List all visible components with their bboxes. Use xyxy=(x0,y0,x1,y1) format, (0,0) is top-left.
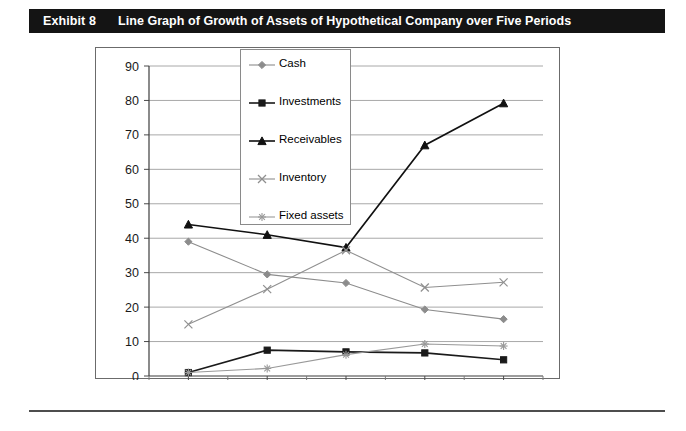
y-axis-tick-label: 30 xyxy=(125,266,139,280)
data-point-marker xyxy=(500,342,508,350)
y-axis-tick-label: 40 xyxy=(125,232,139,246)
footer-rule xyxy=(29,410,665,412)
exhibit-label: Exhibit 8 xyxy=(43,14,96,28)
data-point-marker xyxy=(263,364,271,372)
exhibit-title: Line Graph of Growth of Assets of Hypoth… xyxy=(118,14,571,28)
legend-label: Inventory xyxy=(279,171,326,183)
triangle-marker-icon xyxy=(247,133,277,145)
data-point-marker xyxy=(185,238,192,245)
data-point-marker xyxy=(422,350,428,356)
data-point-marker xyxy=(342,279,349,286)
chart-frame: 010203040506070809012345 CashInvestments… xyxy=(95,47,560,379)
legend-item-inventory[interactable]: Inventory xyxy=(247,170,326,184)
legend-label: Investments xyxy=(279,95,341,107)
y-axis-tick-label: 80 xyxy=(125,94,139,108)
y-axis-tick-label: 0 xyxy=(132,370,139,381)
legend-label: Cash xyxy=(279,57,306,69)
diamond-marker-icon xyxy=(247,57,277,69)
data-point-marker xyxy=(421,141,429,149)
asterisk-marker-icon xyxy=(247,209,277,221)
x-marker-icon xyxy=(247,171,277,183)
data-point-marker xyxy=(264,271,271,278)
legend-item-investments[interactable]: Investments xyxy=(247,94,341,108)
data-point-marker xyxy=(259,100,265,106)
square-marker-icon xyxy=(247,95,277,107)
data-point-marker xyxy=(258,213,266,221)
data-point-marker xyxy=(184,320,192,328)
legend-label: Receivables xyxy=(279,133,342,145)
y-axis-tick-label: 70 xyxy=(125,128,139,142)
legend-item-cash[interactable]: Cash xyxy=(247,56,306,70)
chart-legend: CashInvestmentsReceivablesInventoryFixed… xyxy=(240,49,351,225)
exhibit-header-band: Exhibit 8 Line Graph of Growth of Assets… xyxy=(29,9,665,33)
data-point-marker xyxy=(263,285,271,293)
data-point-marker xyxy=(264,347,270,353)
y-axis-tick-label: 10 xyxy=(125,335,139,349)
y-axis-tick-label: 50 xyxy=(125,197,139,211)
y-axis-tick-label: 20 xyxy=(125,301,139,315)
legend-item-fixed-assets[interactable]: Fixed assets xyxy=(247,208,344,222)
data-point-marker xyxy=(501,357,507,363)
y-axis-tick-label: 90 xyxy=(125,60,139,74)
y-axis-tick-label: 60 xyxy=(125,163,139,177)
data-point-marker xyxy=(258,61,265,68)
data-point-marker xyxy=(421,340,429,348)
data-point-marker xyxy=(500,316,507,323)
legend-label: Fixed assets xyxy=(279,209,344,221)
legend-item-receivables[interactable]: Receivables xyxy=(247,132,342,146)
data-point-marker xyxy=(184,369,192,377)
data-point-marker xyxy=(342,351,350,359)
